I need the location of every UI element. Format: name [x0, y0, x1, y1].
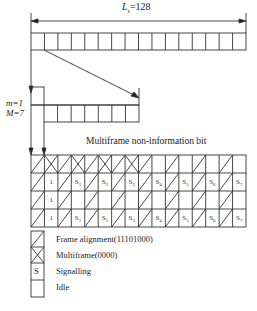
grid-cell-label: S3 [125, 214, 138, 225]
grid-cell-label: S3 [125, 178, 138, 189]
grid-title: Multiframe non-information bit [86, 136, 206, 146]
grid-cell-label: S1 [71, 214, 84, 225]
grid-cell-label: 1 [44, 196, 57, 204]
grid-cell-label: 1 [44, 214, 57, 222]
grid-cell-label: S5 [179, 214, 192, 225]
legend-signalling-symbol: S [34, 266, 39, 276]
grid-cell-label: S4 [152, 214, 165, 225]
grid-cell-label: S7 [233, 178, 246, 189]
legend-signalling: Signalling [56, 266, 91, 276]
grid-cell-label: S1 [71, 178, 84, 189]
legend-frame-alignment: Frame alignment(11101000) [56, 234, 153, 244]
grid-cell-label: S4 [152, 178, 165, 189]
grid-cell-label: 1 [44, 178, 57, 186]
frame-structure-diagram [0, 0, 257, 311]
grid-cell-label: S2 [98, 178, 111, 189]
grid-cell-label: S6 [206, 178, 219, 189]
grid-cell-label: S2 [98, 214, 111, 225]
ls-value: =128 [130, 1, 151, 12]
m-label: m=1 [6, 98, 23, 108]
grid-cell-label: S5 [179, 178, 192, 189]
legend-idle: Idle [56, 282, 69, 292]
legend-multiframe: Multiframe(0000) [56, 250, 117, 260]
grid-cell-label: S7 [233, 214, 246, 225]
ls-label: Ls=128 [122, 2, 151, 16]
M-label: M=7 [6, 108, 24, 118]
grid-cell-label: S6 [206, 214, 219, 225]
